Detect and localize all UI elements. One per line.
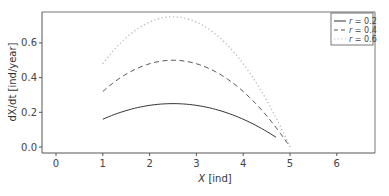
x-tick-label: 3: [193, 158, 199, 169]
svg-text:r = 0.4: r = 0.4: [349, 26, 377, 35]
y-tick-label: 0.6: [21, 37, 37, 48]
x-tick-label: 2: [146, 158, 152, 169]
line-chart: 0123456 0.00.20.40.6 X [ind] dX/dt [ind/…: [0, 0, 389, 196]
x-tick-label: 1: [100, 158, 106, 169]
y-tick-label: 0.2: [21, 107, 37, 118]
x-tick-label: 6: [334, 158, 340, 169]
y-tick-label: 0.4: [21, 72, 37, 83]
x-tick-label: 5: [287, 158, 293, 169]
y-axis-ticks: 0.00.20.40.6: [21, 37, 42, 152]
x-tick-label: 0: [53, 158, 59, 169]
x-tick-label: 4: [240, 158, 246, 169]
curves: [103, 17, 290, 147]
y-tick-label: 0.0: [21, 142, 37, 153]
x-axis-ticks: 0123456: [53, 153, 340, 169]
y-axis-title: dX/dt [ind/year]: [7, 42, 18, 121]
x-axis-unit: [ind]: [205, 173, 232, 184]
svg-text:r = 0.6: r = 0.6: [349, 35, 377, 44]
curve-dotted: [103, 17, 290, 147]
curve-dashed: [103, 60, 290, 147]
plot-area: [42, 12, 375, 153]
svg-text:r = 0.2: r = 0.2: [349, 17, 377, 26]
x-axis-title: X [ind]: [197, 173, 231, 184]
curve-solid: [103, 104, 276, 138]
legend: r = 0.2 r = 0.4 r = 0.6: [331, 13, 377, 45]
